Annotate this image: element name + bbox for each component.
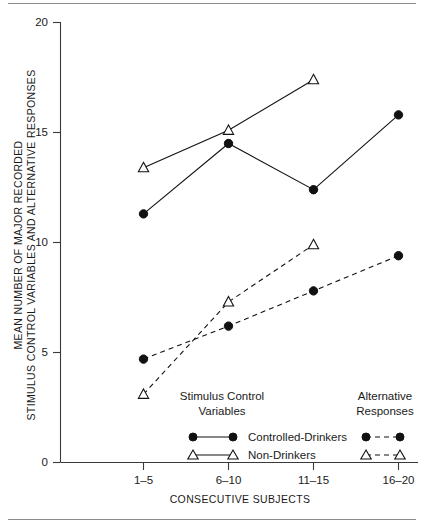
- legend-group-left-line1: Stimulus Control: [180, 390, 264, 402]
- legend-group-right-line2: Responses: [356, 405, 414, 417]
- series-line: [144, 80, 314, 168]
- series-line: [144, 115, 399, 214]
- series-stimulus-control-variables-non-drinkers: [138, 74, 318, 171]
- data-point-open-triangle-icon: [308, 239, 318, 248]
- y-tick-label-5: 5: [42, 346, 48, 358]
- x-axis-title: CONSECUTIVE SUBJECTS: [170, 493, 311, 505]
- y-tick-label-15: 15: [35, 126, 48, 138]
- x-tick-label-11-15: 11–15: [298, 474, 329, 486]
- data-point-filled-circle-icon: [394, 252, 402, 260]
- y-axis-title-line2: STIMULUS CONTROL VARIABLES AND ALTERNATI…: [25, 70, 37, 421]
- data-point-filled-circle-icon: [139, 355, 147, 363]
- data-point-open-triangle-icon: [223, 297, 233, 306]
- legend-label-non-drinkers: Non-Drinkers: [248, 449, 316, 461]
- data-point-open-triangle-icon: [138, 389, 148, 398]
- legend-group-left-line2: Variables: [198, 405, 245, 417]
- data-point-filled-circle-icon: [394, 111, 402, 119]
- series-alternative-responses-non-drinkers: [138, 239, 318, 398]
- legend-filled-circle-icon-alt-right: [396, 433, 404, 441]
- x-axis-ticks: [144, 463, 399, 471]
- x-tick-label-6-10: 6–10: [216, 474, 242, 486]
- legend-filled-circle-icon-left: [189, 433, 197, 441]
- y-axis-ticks: [53, 23, 61, 463]
- data-point-open-triangle-icon: [223, 125, 233, 134]
- data-point-filled-circle-icon: [224, 322, 232, 330]
- y-tick-label-20: 20: [35, 16, 48, 28]
- legend-label-controlled-drinkers: Controlled-Drinkers: [248, 431, 347, 443]
- data-point-open-triangle-icon: [308, 74, 318, 83]
- x-tick-label-16-20: 16–20: [383, 474, 415, 486]
- legend-row-controlled-drinkers[interactable]: Controlled-Drinkers: [189, 431, 404, 443]
- legend-group-right-line1: Alternative: [358, 390, 412, 402]
- x-tick-label-1-5: 1–5: [134, 474, 153, 486]
- series-stimulus-control-variables-controlled-drinkers: [139, 111, 402, 218]
- data-point-open-triangle-icon: [138, 162, 148, 171]
- series-line: [144, 256, 399, 359]
- y-tick-label-0: 0: [42, 456, 48, 468]
- series-layer: [138, 74, 402, 398]
- series-alternative-responses-controlled-drinkers: [139, 252, 402, 364]
- y-tick-label-10: 10: [35, 236, 48, 248]
- legend-row-non-drinkers[interactable]: Non-Drinkers: [188, 449, 405, 461]
- y-axis-title-line1: MEAN NUMBER OF MAJOR RECORDED: [12, 140, 24, 349]
- data-point-filled-circle-icon: [224, 139, 232, 147]
- line-chart: 20 15 10 5 0 1–5 6–10 11–15 16–20 CONSEC…: [0, 0, 424, 528]
- data-point-filled-circle-icon: [309, 186, 317, 194]
- legend-filled-circle-icon-right: [229, 433, 237, 441]
- legend-filled-circle-icon-alt-left: [362, 433, 370, 441]
- series-line: [144, 245, 314, 395]
- data-point-filled-circle-icon: [309, 287, 317, 295]
- chart-legend: Stimulus Control Variables Alternative R…: [180, 390, 414, 461]
- figure-root: 20 15 10 5 0 1–5 6–10 11–15 16–20 CONSEC…: [0, 0, 424, 528]
- data-point-filled-circle-icon: [139, 210, 147, 218]
